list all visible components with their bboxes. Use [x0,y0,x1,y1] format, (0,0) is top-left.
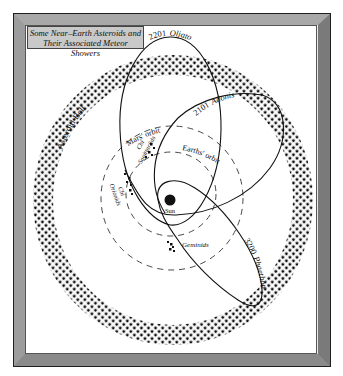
sun-label: Sun [165,207,176,214]
sun-icon [165,195,176,206]
title-line-2: Their Associated Meteor Showers [28,38,143,58]
geminids-label: Geminids [182,241,209,249]
title-box: Some Near–Earth Asteroids and Their Asso… [27,26,144,49]
title-line-1: Some Near–Earth Asteroids and [28,28,143,38]
